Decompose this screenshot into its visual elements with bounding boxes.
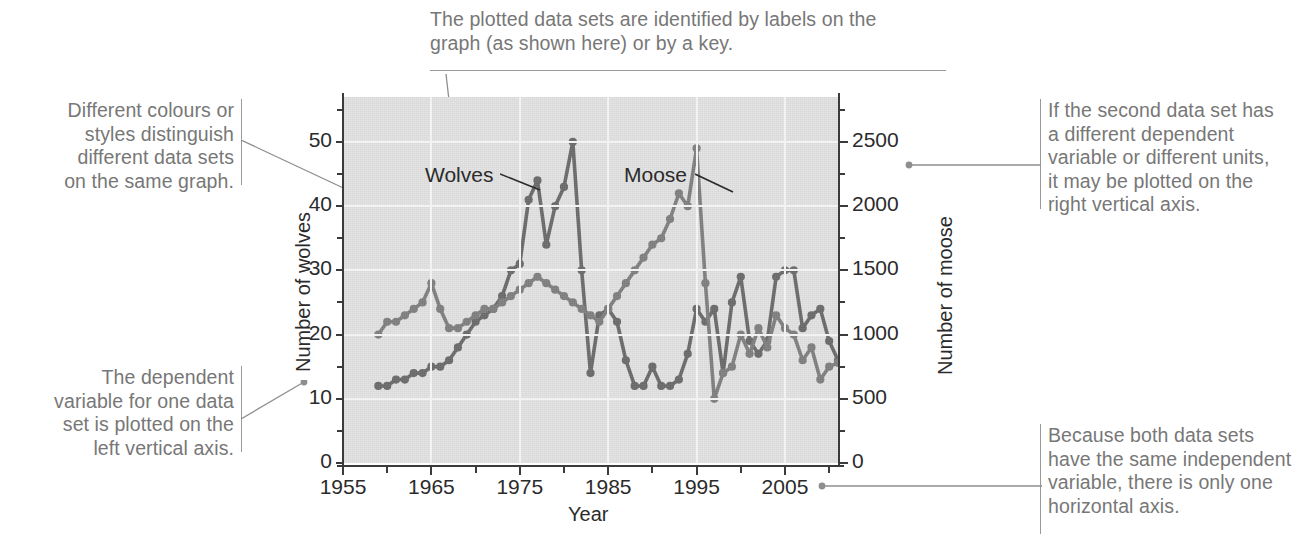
data-point	[410, 369, 418, 377]
y-tick-major	[336, 462, 344, 464]
y-tick-label: 0	[296, 449, 332, 473]
data-point	[728, 363, 736, 371]
data-point	[383, 318, 391, 326]
data-point	[418, 369, 426, 377]
data-point	[418, 298, 426, 306]
y2-tick-major	[840, 141, 848, 143]
data-point	[799, 324, 807, 332]
data-series-svg	[343, 97, 838, 463]
data-point	[569, 298, 577, 306]
data-point	[675, 375, 683, 383]
data-point	[445, 356, 453, 364]
data-point	[507, 292, 515, 300]
data-point	[586, 369, 594, 377]
x-tick-label: 2005	[743, 475, 827, 499]
callout-right-upper-leader-svg	[905, 158, 1045, 172]
x-tick-minor	[386, 467, 388, 473]
left-axis-line	[342, 93, 344, 467]
data-point	[622, 356, 630, 364]
x-tick-minor	[651, 467, 653, 473]
y2-tick-major	[840, 269, 848, 271]
callout-left-upper-text: Different colours or styles distinguish …	[10, 99, 234, 193]
y2-tick-minor	[840, 430, 845, 432]
data-point	[436, 363, 444, 371]
data-point	[763, 343, 771, 351]
y2-tick-minor	[840, 109, 845, 111]
gridline-vertical	[607, 97, 609, 463]
data-point	[392, 318, 400, 326]
data-point	[772, 273, 780, 281]
callout-top-text: The plotted data sets are identified by …	[430, 8, 950, 55]
data-point	[436, 305, 444, 313]
callout-right-upper-text: If the second data set has a different d…	[1048, 99, 1310, 217]
x-axis-title: Year	[568, 503, 608, 526]
x-tick-minor	[740, 467, 742, 473]
y-tick-major	[336, 269, 344, 271]
y-tick-major	[336, 334, 344, 336]
data-point	[410, 305, 418, 313]
y-tick-minor	[337, 173, 342, 175]
y2-tick-label: 2500	[852, 128, 899, 152]
data-point	[701, 279, 709, 287]
data-point	[480, 305, 488, 313]
y2-tick-minor	[840, 366, 845, 368]
x-tick-major	[519, 467, 521, 475]
y-tick-major	[336, 205, 344, 207]
series-label-moose: Moose	[624, 163, 687, 187]
x-tick-label: 1965	[389, 475, 473, 499]
y2-tick-label: 1000	[852, 321, 899, 345]
data-point	[489, 305, 497, 313]
data-point	[807, 311, 815, 319]
y-tick-major	[336, 398, 344, 400]
data-point	[383, 382, 391, 390]
y-tick-minor	[337, 366, 342, 368]
right-axis-line	[838, 93, 840, 467]
gridline-vertical	[696, 97, 698, 463]
y-tick-minor	[337, 301, 342, 303]
y2-tick-label: 2000	[852, 192, 899, 216]
data-point	[560, 183, 568, 191]
y-tick-minor	[337, 237, 342, 239]
data-point	[737, 273, 745, 281]
data-point	[657, 234, 665, 242]
callout-left-lower-text: The dependent variable for one data set …	[10, 366, 234, 460]
gridline-horizontal	[343, 269, 838, 271]
x-tick-major	[430, 467, 432, 475]
data-point	[622, 279, 630, 287]
data-point	[666, 382, 674, 390]
y2-tick-label: 1500	[852, 256, 899, 280]
data-point	[631, 382, 639, 390]
data-point	[525, 196, 533, 204]
data-point	[648, 363, 656, 371]
y-tick-major	[336, 141, 344, 143]
data-point	[613, 292, 621, 300]
data-point	[454, 324, 462, 332]
data-point	[816, 375, 824, 383]
data-point	[454, 343, 462, 351]
data-point	[542, 279, 550, 287]
gridline-horizontal	[343, 398, 838, 400]
y2-tick-minor	[840, 237, 845, 239]
data-point	[595, 318, 603, 326]
x-tick-minor	[828, 467, 830, 473]
data-point	[799, 356, 807, 364]
data-point	[471, 311, 479, 319]
series-label-wolves-leader	[500, 160, 548, 194]
data-point	[498, 298, 506, 306]
y-axis-title: Number of wolves	[292, 212, 315, 372]
callout-right-lower-leader-svg	[818, 479, 1046, 493]
x-tick-minor	[563, 467, 565, 473]
data-point	[675, 189, 683, 197]
series-label-moose-leader	[695, 160, 743, 194]
x-tick-major	[342, 467, 344, 475]
plot-area	[343, 97, 838, 463]
data-point	[754, 324, 762, 332]
y2-tick-major	[840, 398, 848, 400]
x-tick-label: 1985	[566, 475, 650, 499]
y2-tick-label: 0	[852, 449, 864, 473]
data-point	[710, 305, 718, 313]
y2-tick-major	[840, 334, 848, 336]
y2-tick-major	[840, 205, 848, 207]
data-point	[401, 375, 409, 383]
data-point	[807, 343, 815, 351]
